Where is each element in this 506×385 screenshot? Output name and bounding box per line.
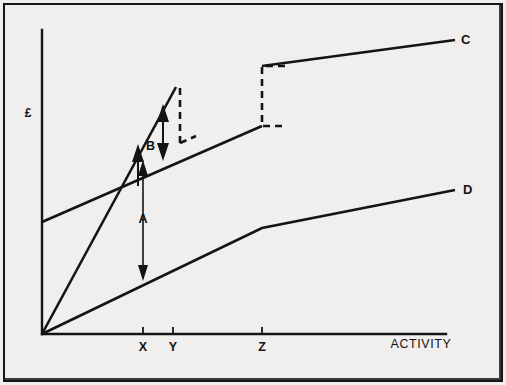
x-axis-label: ACTIVITY <box>390 337 451 351</box>
steep-line-path <box>42 87 176 334</box>
axes-group <box>42 30 446 334</box>
step-increase-marker <box>262 66 285 126</box>
step-dashed-bracket <box>262 66 285 126</box>
series-line-d <box>42 190 455 334</box>
tick-label-z: Z <box>258 340 266 354</box>
dashed-drop-marker <box>180 88 196 143</box>
series-label-c: C <box>461 32 471 47</box>
annotation-a-arrowhead-up <box>138 160 148 176</box>
tick-label-y: Y <box>169 340 178 354</box>
series-d-path <box>42 190 455 334</box>
annotation-a-arrowhead-down <box>138 265 148 281</box>
series-c-segment-2 <box>262 40 455 66</box>
series-label-d: D <box>463 182 472 197</box>
chart-figure: A B X Y Z £ ACTIVITY C D <box>0 0 506 385</box>
cost-behaviour-plot: A B X Y Z £ ACTIVITY C D <box>0 0 506 385</box>
tick-label-x: X <box>139 340 148 354</box>
annotation-b-arrowhead-down <box>157 143 169 161</box>
annotation-b-label: B <box>146 139 155 153</box>
series-line-c <box>42 40 455 222</box>
y-axis-label: £ <box>25 106 32 120</box>
dashed-drop-foot <box>180 136 196 143</box>
annotation-b: B <box>146 104 169 161</box>
series-line-steep <box>42 87 176 334</box>
annotation-a-label: A <box>138 212 147 226</box>
annotation-b-arrowhead-up <box>157 104 169 122</box>
x-tick-labels: X Y Z <box>139 340 266 354</box>
